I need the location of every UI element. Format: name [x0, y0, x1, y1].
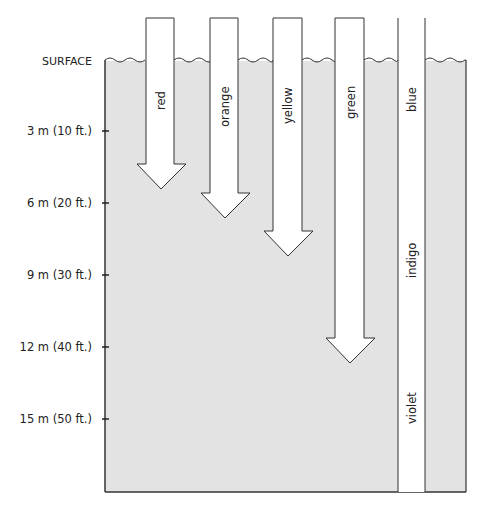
depth-scale: 3 m (10 ft.) 6 m (20 ft.) 9 m (30 ft.) 1…	[20, 124, 109, 426]
label-green: green	[344, 86, 358, 119]
label-blue: blue	[405, 87, 419, 112]
depth-label-6m: 6 m (20 ft.)	[27, 196, 92, 210]
light-penetration-diagram: red orange yellow green blue indigo viol…	[0, 0, 486, 512]
surface-label: SURFACE	[42, 55, 92, 68]
label-yellow: yellow	[281, 87, 295, 124]
depth-label-12m: 12 m (40 ft.)	[20, 340, 92, 354]
label-red: red	[154, 91, 168, 110]
label-indigo: indigo	[405, 243, 419, 278]
depth-label-3m: 3 m (10 ft.)	[27, 124, 92, 138]
depth-label-15m: 15 m (50 ft.)	[20, 412, 92, 426]
label-orange: orange	[218, 87, 232, 127]
depth-label-9m: 9 m (30 ft.)	[27, 268, 92, 282]
label-violet: violet	[405, 392, 419, 424]
